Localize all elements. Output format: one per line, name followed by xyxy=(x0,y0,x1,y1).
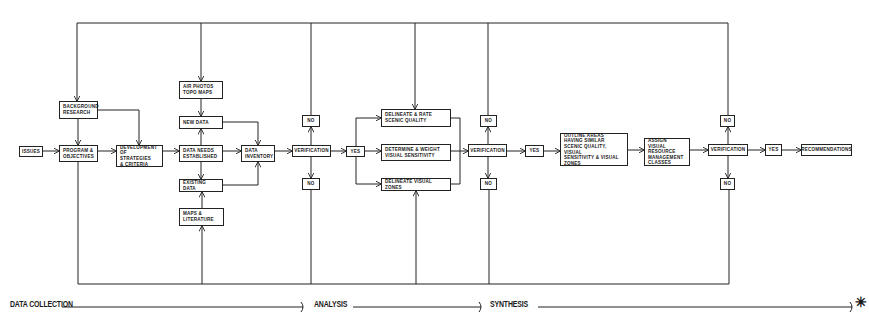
yes-2-box: YES xyxy=(525,145,544,157)
program-objectives-box: PROGRAM & OBJECTIVES xyxy=(59,145,98,162)
delineate-zones-box: DELINEATE VISUAL ZONES xyxy=(381,178,451,191)
phase-synthesis: SYNTHESIS xyxy=(490,299,528,309)
development-strategies-box: DEVELOPMENT OF STRATEGIES & CRITERIA xyxy=(116,145,163,167)
no-2-top-box: NO xyxy=(480,115,497,127)
air-photos-box: AIR PHOTOS TOPO MAPS xyxy=(179,81,223,99)
data-inventory-box: DATA INVENTORY xyxy=(241,145,275,162)
issues-box: ISSUES xyxy=(19,146,43,157)
recommendations-box: RECOMMENDATIONS xyxy=(801,144,852,156)
delineate-rate-box: DELINEATE & RATE SCENIC QUALITY xyxy=(381,109,451,127)
data-needs-box: DATA NEEDS ESTABLISHED xyxy=(179,145,223,162)
yes-3-box: YES xyxy=(765,144,782,156)
end-asterisk-icon: ✳ xyxy=(855,294,867,310)
assign-classes-box: ASSIGN VISUAL RESOURCE MANAGEMENT CLASSE… xyxy=(644,138,690,166)
phase-analysis: ANALYSIS xyxy=(314,299,347,309)
verification-1-box: VERIFICATION xyxy=(292,145,331,157)
no-1-bottom-box: NO xyxy=(302,178,320,190)
verification-3-box: VERIFICATION xyxy=(708,144,748,156)
maps-literature-box: MAPS & LITERATURE xyxy=(179,208,224,226)
no-2-bottom-box: NO xyxy=(480,178,497,190)
no-3-top-box: NO xyxy=(720,115,735,127)
new-data-box: NEW DATA xyxy=(179,116,223,129)
phase-data-collection: DATA COLLECTION xyxy=(10,299,73,309)
no-3-bottom-box: NO xyxy=(720,178,735,190)
determine-weight-box: DETERMINE & WEIGHT VISUAL SENSITIVITY xyxy=(381,144,451,161)
existing-data-box: EXISTING DATA xyxy=(179,179,223,192)
no-1-top-box: NO xyxy=(302,115,320,127)
background-research-box: BACKGROUND RESEARCH xyxy=(59,101,98,119)
yes-1-box: YES xyxy=(346,146,365,157)
verification-2-box: VERIFICATION xyxy=(468,144,507,157)
outline-areas-box: OUTLINE AREAS HAVING SIMILAR SCENIC QUAL… xyxy=(560,133,628,166)
